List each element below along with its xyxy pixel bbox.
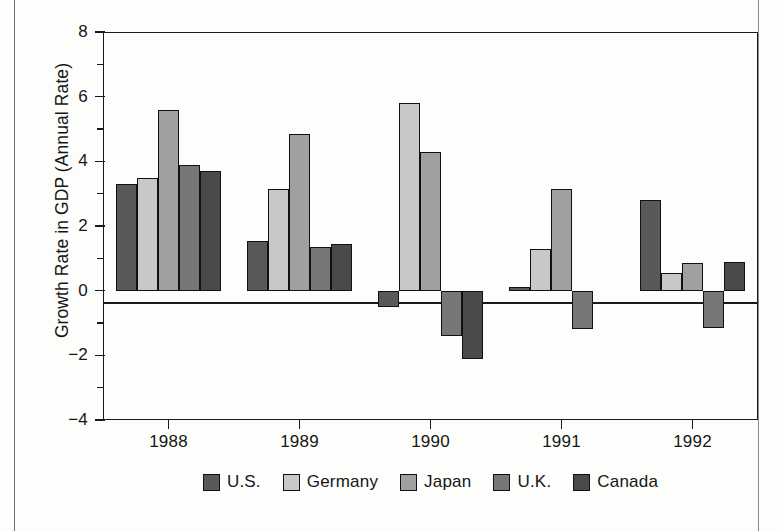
bar-japan-1991 [551, 189, 572, 291]
y-tick-label: 0 [78, 282, 88, 299]
bar-us-1990 [378, 291, 399, 307]
legend-swatch-icon [400, 474, 417, 491]
y-tick-label: −2 [68, 346, 88, 363]
legend-swatch-icon [493, 474, 510, 491]
bar-us-1991 [509, 287, 530, 290]
legend-label: Japan [424, 472, 471, 492]
y-tick-label: 4 [78, 152, 88, 169]
x-tick [561, 420, 563, 429]
bar-germany-1991 [530, 249, 551, 291]
bar-canada-1992 [724, 262, 745, 291]
legend-label: Canada [597, 472, 658, 492]
x-tick-label: 1990 [386, 432, 476, 452]
bar-us-1989 [247, 241, 268, 291]
x-tick-label: 1992 [648, 432, 738, 452]
bar-japan-1989 [289, 134, 310, 291]
bar-germany-1992 [661, 273, 682, 291]
bar-uk-1990 [441, 291, 462, 336]
legend-item-canada[interactable]: Canada [573, 472, 658, 492]
chart-legend: U.S.GermanyJapanU.K.Canada [103, 472, 758, 492]
y-tick-label: −4 [68, 411, 88, 428]
y-tick-label: 2 [78, 217, 88, 234]
x-tick [299, 420, 301, 429]
legend-swatch-icon [283, 474, 300, 491]
x-tick-label: 1988 [124, 432, 214, 452]
x-tick-label: 1989 [255, 432, 345, 452]
bar-uk-1988 [179, 165, 200, 291]
bar-germany-1990 [399, 103, 420, 291]
legend-item-uk[interactable]: U.K. [493, 472, 551, 492]
bar-germany-1988 [137, 178, 158, 291]
x-tick [430, 420, 432, 429]
bar-uk-1992 [703, 291, 724, 328]
bar-canada-1989 [331, 244, 352, 291]
legend-label: Germany [307, 472, 378, 492]
bar-canada-1988 [200, 171, 221, 291]
y-tick-label: 8 [78, 23, 88, 40]
bar-uk-1989 [310, 247, 331, 291]
legend-swatch-icon [573, 474, 590, 491]
legend-item-germany[interactable]: Germany [283, 472, 378, 492]
legend-label: U.S. [227, 472, 261, 492]
bar-us-1992 [640, 200, 661, 291]
bar-uk-1991 [572, 291, 593, 330]
legend-item-us[interactable]: U.S. [203, 472, 261, 492]
x-tick [168, 420, 170, 429]
legend-swatch-icon [203, 474, 220, 491]
bar-us-1988 [116, 184, 137, 291]
zero-baseline [103, 302, 758, 304]
y-tick-label: 6 [78, 88, 88, 105]
bar-japan-1988 [158, 110, 179, 291]
bar-germany-1989 [268, 189, 289, 291]
legend-label: U.K. [517, 472, 551, 492]
gdp-growth-bar-chart: Growth Rate in GDP (Annual Rate) 86420−2… [0, 0, 783, 531]
bar-japan-1990 [420, 152, 441, 291]
legend-item-japan[interactable]: Japan [400, 472, 471, 492]
x-tick [692, 420, 694, 429]
x-tick-label: 1991 [517, 432, 607, 452]
bar-canada-1990 [462, 291, 483, 359]
bar-japan-1992 [682, 263, 703, 290]
y-axis-title: Growth Rate in GDP (Annual Rate) [52, 21, 73, 381]
